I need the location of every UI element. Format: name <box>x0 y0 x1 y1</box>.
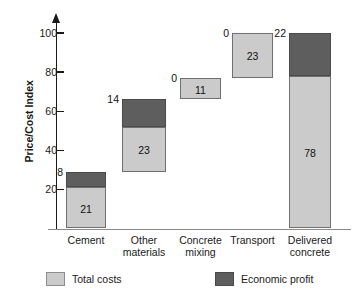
y-axis-arrow-icon <box>52 13 60 23</box>
chart-legend: Total costs Economic profit <box>0 272 359 294</box>
legend-item-total-costs: Total costs <box>46 272 122 286</box>
chart-container: Price/Cost Index 20406080100 21823141102… <box>0 0 359 303</box>
y-axis-tick-label-20: 20 <box>17 184 57 195</box>
bar-top-label-2: 14 <box>88 94 119 105</box>
bar-segment-total-costs: 23 <box>232 33 273 78</box>
x-axis-label-delivered-concrete: Delivered concrete <box>276 235 344 258</box>
plot-area: Price/Cost Index 20406080100 21823141102… <box>0 0 359 303</box>
bar-value-label-total-costs: 23 <box>123 145 165 156</box>
legend-swatch-icon-total-costs <box>46 272 65 286</box>
y-axis-tick-60 <box>57 111 64 112</box>
y-axis-tick-40 <box>57 150 64 151</box>
legend-label-total-costs: Total costs <box>72 274 122 285</box>
y-axis-tick-20 <box>57 189 64 190</box>
bar-top-label-3: 0 <box>146 73 177 84</box>
bar-top-label-4: 0 <box>198 28 229 39</box>
y-axis-tick-label-60: 60 <box>17 106 57 117</box>
bar-top-label-1: 8 <box>32 167 63 178</box>
bar-segment-total-costs: 78 <box>289 76 331 228</box>
y-axis-tick-label-80: 80 <box>17 67 57 78</box>
bar-segment-economic-profit <box>289 33 331 76</box>
bar-segment-economic-profit <box>66 172 106 188</box>
bar-value-label-total-costs: 78 <box>290 148 330 159</box>
bar-segment-total-costs: 11 <box>180 78 221 100</box>
bar-segment-total-costs: 21 <box>66 187 106 228</box>
y-axis-line <box>56 22 57 229</box>
bar-top-label-5: 22 <box>255 28 286 39</box>
bar-segment-total-costs: 23 <box>122 127 166 172</box>
legend-item-economic-profit: Economic profit <box>215 272 313 286</box>
y-axis-tick-100 <box>57 32 64 33</box>
bar-value-label-total-costs: 23 <box>233 51 272 62</box>
y-axis-tick-label-40: 40 <box>17 145 57 156</box>
legend-swatch-icon-economic-profit <box>215 272 234 286</box>
x-axis-line <box>48 229 351 230</box>
legend-label-economic-profit: Economic profit <box>241 274 313 285</box>
y-axis-tick-80 <box>57 71 64 72</box>
bar-segment-economic-profit <box>122 99 166 126</box>
y-axis-tick-label-100: 100 <box>17 28 57 39</box>
bar-value-label-total-costs: 11 <box>181 85 220 96</box>
bar-value-label-total-costs: 21 <box>67 204 105 215</box>
